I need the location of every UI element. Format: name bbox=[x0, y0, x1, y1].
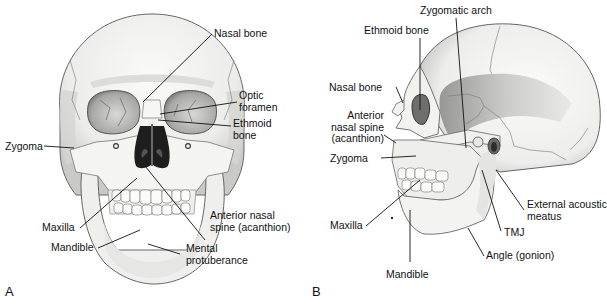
label-a-maxilla: Maxilla bbox=[42, 222, 75, 234]
label-a-anterior-nasal-spine-line2: spine (acanthion) bbox=[210, 222, 291, 234]
label-b-external-acoustic-meatus: External acoustic meatus bbox=[527, 199, 607, 222]
label-a-ethmoid-bone-line2: bone bbox=[233, 130, 272, 142]
label-b-nasal-bone: Nasal bone bbox=[329, 82, 382, 94]
label-a-anterior-nasal-spine: Anterior nasal spine (acanthion) bbox=[210, 210, 291, 233]
label-b-tmj: TMJ bbox=[504, 227, 524, 239]
label-a-mandible: Mandible bbox=[51, 242, 94, 254]
label-a-zygoma: Zygoma bbox=[5, 141, 43, 153]
panel-letter-b: B bbox=[312, 284, 321, 299]
label-a-mental-protuberance-line2: protuberance bbox=[186, 255, 248, 267]
label-b-angle-gonion: Angle (gonion) bbox=[486, 250, 554, 262]
label-a-ethmoid-bone: Ethmoid bone bbox=[233, 118, 272, 141]
label-b-ethmoid-bone: Ethmoid bone bbox=[364, 25, 429, 37]
label-b-mandible: Mandible bbox=[386, 269, 429, 281]
label-a-mental-protuberance-line1: Mental bbox=[186, 243, 248, 255]
label-b-zygomatic-arch: Zygomatic arch bbox=[420, 5, 492, 17]
label-a-optic-foramen-line2: foramen bbox=[239, 102, 278, 114]
panel-letter-a: A bbox=[5, 284, 14, 299]
label-a-nasal-bone: Nasal bone bbox=[214, 28, 267, 40]
label-a-optic-foramen-line1: Optic bbox=[239, 90, 278, 102]
label-b-zygoma: Zygoma bbox=[330, 153, 368, 165]
label-b-maxilla: Maxilla bbox=[330, 220, 363, 232]
label-b-external-acoustic-meatus-line2: meatus bbox=[527, 211, 607, 223]
label-a-anterior-nasal-spine-line1: Anterior nasal bbox=[210, 210, 291, 222]
label-a-ethmoid-bone-line1: Ethmoid bbox=[233, 118, 272, 130]
label-a-mental-protuberance: Mental protuberance bbox=[186, 243, 248, 266]
label-b-external-acoustic-meatus-line1: External acoustic bbox=[527, 199, 607, 211]
label-b-anterior-nasal-spine: Anterior nasal spine (acanthion) bbox=[318, 110, 384, 145]
label-b-anterior-nasal-spine-line3: (acanthion) bbox=[318, 133, 384, 145]
label-b-anterior-nasal-spine-line1: Anterior bbox=[318, 110, 384, 122]
label-a-optic-foramen: Optic foramen bbox=[239, 90, 278, 113]
